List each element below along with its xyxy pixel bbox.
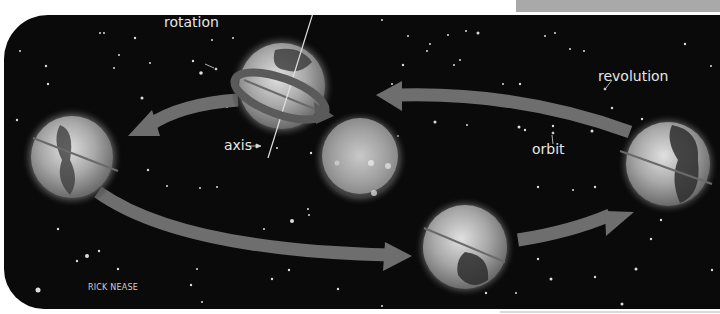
bottom-divider [500, 311, 720, 313]
arrow-bottom-to-right [518, 215, 610, 240]
revolution-label: revolution [598, 69, 669, 83]
arrow-top-to-left [148, 100, 238, 126]
sun-icon [313, 111, 407, 205]
earth-right-icon [618, 114, 718, 214]
earth-left-icon [22, 107, 122, 207]
axis-label: axis [224, 138, 252, 152]
rotation-label: rotation [164, 15, 219, 29]
space-background: rotation axis orbit revolution RICK NEAS… [4, 15, 720, 309]
top-gray-bar [516, 0, 720, 12]
arrow-right-to-top [400, 95, 630, 132]
orbit-diagram [4, 15, 720, 309]
earth-bottom-icon [415, 197, 515, 297]
orbit-label: orbit [532, 142, 565, 156]
photo-credit: RICK NEASE [88, 283, 138, 292]
